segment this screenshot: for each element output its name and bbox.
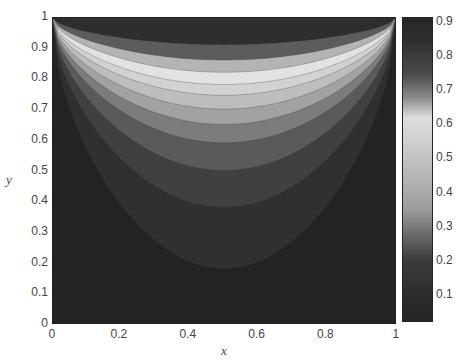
colorbar-tick-label: 0.8 [436, 48, 453, 62]
x-tick-label: 0.2 [111, 327, 128, 341]
colorbar-tick-label: 0.3 [436, 219, 453, 233]
contour-plot-area [52, 17, 396, 324]
colorbar-tick-label: 0.5 [436, 150, 453, 164]
y-tick-label: 0.8 [18, 70, 48, 84]
y-tick-label: 0.4 [18, 193, 48, 207]
y-tick-label: 1 [18, 9, 48, 23]
x-tick-label: 0 [49, 327, 56, 341]
colorbar [402, 17, 433, 322]
y-tick-label: 0.1 [18, 285, 48, 299]
colorbar-tick-label: 0.7 [436, 82, 453, 96]
x-axis-title: x [221, 343, 227, 359]
y-tick-label: 0.7 [18, 101, 48, 115]
y-tick-label: 0.5 [18, 163, 48, 177]
x-tick-label: 0.8 [317, 327, 334, 341]
y-tick-label: 0.3 [18, 224, 48, 238]
colorbar-tick-label: 0.1 [436, 287, 453, 301]
x-tick-label: 0.6 [248, 327, 265, 341]
y-tick-label: 0.6 [18, 132, 48, 146]
colorbar-tick-label: 0.2 [436, 253, 453, 267]
x-tick-label: 0.4 [179, 327, 196, 341]
colorbar-tick-label: 0.6 [436, 116, 453, 130]
y-tick-label: 0 [18, 316, 48, 330]
y-tick-label: 0.9 [18, 40, 48, 54]
y-tick-label: 0.2 [18, 255, 48, 269]
y-axis-title: y [6, 172, 12, 188]
colorbar-tick-label: 0.4 [436, 185, 453, 199]
x-tick-label: 1 [393, 327, 400, 341]
colorbar-tick-label: 0.9 [436, 14, 453, 28]
contour-figure: 00.10.20.30.40.50.60.70.80.91 y 00.20.40… [0, 0, 465, 364]
